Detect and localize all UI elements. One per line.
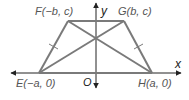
- x-axis-label: x: [174, 57, 182, 71]
- origin-label: O: [83, 76, 92, 88]
- trapezoid-diagram: F(−b, c) G(b, c) E(−a, 0) H(a, 0) y x O: [0, 0, 189, 100]
- label-g: G(b, c): [118, 5, 152, 17]
- label-f: F(−b, c): [35, 5, 74, 17]
- label-h: H(a, 0): [138, 77, 172, 89]
- y-axis-label: y: [100, 4, 108, 18]
- label-e: E(−a, 0): [16, 77, 56, 89]
